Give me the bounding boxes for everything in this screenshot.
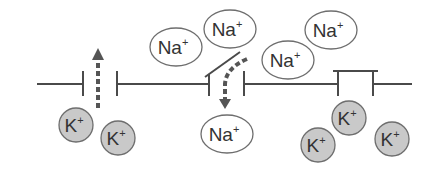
potassium-ion: K+	[332, 101, 366, 135]
ion-charge: +	[319, 134, 325, 146]
closed-channel	[333, 71, 378, 96]
ion-charge: +	[233, 123, 239, 135]
potassium-ion: K+	[59, 108, 93, 142]
ion-channel-diagram: Na+Na+Na+Na+Na+ K+K+K+K+K+	[0, 0, 441, 177]
ion-charge: +	[182, 36, 188, 48]
outward-flow-arrow-icon	[92, 48, 104, 108]
diagram-canvas: Na+Na+Na+Na+Na+ K+K+K+K+K+	[0, 0, 441, 177]
potassium-ion: K+	[101, 121, 135, 155]
sodium-ion: Na+	[150, 28, 202, 66]
potassium-ion: K+	[375, 122, 409, 156]
sodium-ion: Na+	[201, 115, 253, 153]
ion-charge: +	[77, 114, 83, 126]
sodium-ion: Na+	[305, 11, 357, 49]
ion-charge: +	[294, 49, 300, 61]
ion-charge: +	[393, 128, 399, 140]
ion-charge: +	[337, 19, 343, 31]
sodium-ion: Na+	[262, 41, 314, 79]
channel-gate-lid	[205, 52, 240, 77]
ion-charge: +	[236, 18, 242, 30]
sodium-ion: Na+	[204, 10, 256, 48]
ion-charge: +	[119, 127, 125, 139]
potassium-ion: K+	[301, 128, 335, 162]
inward-flow-arrow-icon	[219, 59, 247, 109]
ion-charge: +	[350, 107, 356, 119]
